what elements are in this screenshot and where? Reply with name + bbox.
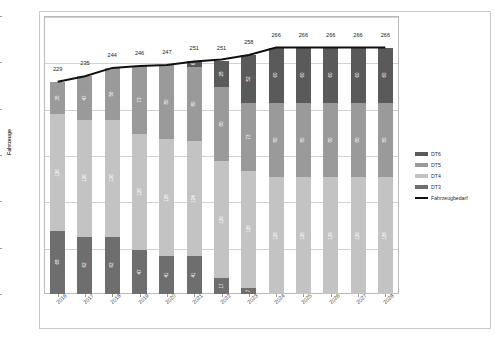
bar-segment-dt5[interactable]: 56 [105,68,120,120]
x-axis-tick-label: 2018 [109,293,122,306]
bar-segment-dt6[interactable]: 6 [187,61,202,67]
bar-segment-dt4[interactable]: 126 [323,177,338,294]
bar-total-label: 244 [108,52,117,58]
bar-segment-dt5[interactable]: 80 [159,65,174,139]
bar-group[interactable]: 1268060266 [378,16,393,294]
bar-segment-dt4[interactable]: 126 [77,120,92,237]
bar-total-label: 229 [53,66,62,72]
bar-segment-value: 6 [192,63,197,66]
bar-segment-dt3[interactable]: 47 [132,250,147,294]
bar-segment-value: 126 [301,232,306,240]
x-axis-tick-label: 2019 [137,293,150,306]
legend-label: DT4 [431,173,441,179]
bar-segment-dt4[interactable]: 126 [214,161,229,278]
bar-segment-value: 126 [247,225,252,233]
bar-total-label: 246 [135,50,144,56]
bar-group[interactable]: 1268060266 [269,16,284,294]
bar-segment-dt6[interactable]: 52 [241,55,256,103]
bar-group[interactable]: 6812635229 [50,16,65,294]
bar-segment-dt3[interactable]: 41 [159,256,174,294]
bar-segment-value: 60 [274,73,279,78]
bar-segment-dt4[interactable]: 126 [50,114,65,231]
x-axis-tick-label: 2023 [246,293,259,306]
bar-segment-dt3[interactable]: 41 [187,256,202,294]
bar-group[interactable]: 6212647235 [77,16,92,294]
bar-total-label: 235 [80,60,89,66]
bar-segment-dt6[interactable]: 60 [269,48,284,104]
legend-item[interactable]: DT6 [415,148,493,159]
bar-segment-dt5[interactable]: 35 [50,82,65,114]
bar-segment-dt4[interactable]: 126 [241,171,256,288]
bar-segment-dt4[interactable]: 126 [105,120,120,237]
x-axis-tick-label: 2027 [355,293,368,306]
bar-segment-dt4[interactable]: 126 [269,177,284,294]
bar-segment-dt6[interactable]: 60 [323,48,338,104]
bar-segment-value: 47 [137,270,142,275]
bar-segment-value: 124 [192,195,197,203]
bar-group[interactable]: 171268028251 [214,16,229,294]
bar-segment-dt6[interactable]: 60 [351,48,366,104]
bar-segment-value: 126 [110,174,115,182]
bar-segment-dt5[interactable]: 73 [132,66,147,134]
chart-container: 050100150200250300 Fahrzeuge 68126352296… [0,0,495,340]
bar-group[interactable]: 1268060266 [296,16,311,294]
bar-segment-dt5[interactable]: 80 [351,103,366,177]
bar-segment-value: 126 [83,174,88,182]
bar-group[interactable]: 6212656244 [105,16,120,294]
bar-segment-value: 60 [383,73,388,78]
bar-group[interactable]: 41124806251 [187,16,202,294]
y-axis-tick-mark [0,16,2,17]
bar-group[interactable]: 1268060266 [323,16,338,294]
bar-total-label: 258 [244,39,253,45]
bar-total-label: 247 [162,49,171,55]
bar-segment-value: 47 [83,95,88,100]
bar-segment-dt4[interactable]: 126 [159,139,174,256]
bar-segment-value: 80 [219,122,224,127]
legend-label: DT5 [431,162,441,168]
bar-group[interactable]: 4112680247 [159,16,174,294]
legend-item[interactable]: DT3 [415,181,493,192]
bar-segment-dt5[interactable]: 80 [378,103,393,177]
bar-segment-dt6[interactable]: 60 [378,48,393,104]
y-axis-title: Fahrzeuge [6,129,12,155]
bar-segment-dt5[interactable]: 80 [187,67,202,141]
bar-segment-dt4[interactable]: 126 [296,177,311,294]
bar-group[interactable]: 71267352258 [241,16,256,294]
y-axis-tick-mark [0,62,2,63]
x-axis-tick-label: 2024 [273,293,286,306]
bar-segment-dt4[interactable]: 126 [351,177,366,294]
bar-segment-dt5[interactable]: 80 [269,103,284,177]
bar-segment-value: 126 [274,232,279,240]
legend-item[interactable]: DT5 [415,159,493,170]
bar-segment-dt3[interactable]: 62 [105,237,120,294]
legend-swatch [415,185,428,189]
legend-label: DT6 [431,151,441,157]
bar-segment-value: 80 [328,138,333,143]
bar-group[interactable]: 1268060266 [351,16,366,294]
bar-segment-dt5[interactable]: 73 [241,103,256,171]
bar-segment-dt5[interactable]: 47 [77,76,92,120]
legend-item[interactable]: Fahrzeugbedarf [415,192,493,203]
bar-segment-dt5[interactable]: 80 [323,103,338,177]
bar-segment-dt6[interactable]: 28 [214,61,229,87]
bar-segment-value: 60 [301,73,306,78]
bar-segment-dt4[interactable]: 124 [187,141,202,256]
bar-segment-value: 80 [165,100,170,105]
bar-segment-value: 62 [110,263,115,268]
legend-item[interactable]: DT4 [415,170,493,181]
bar-segment-value: 52 [247,76,252,81]
bar-segment-value: 73 [247,134,252,139]
x-axis-tick-label: 2021 [191,293,204,306]
bar-segment-value: 60 [356,73,361,78]
bar-segment-dt3[interactable]: 68 [50,231,65,294]
bar-segment-dt3[interactable]: 62 [77,237,92,294]
bar-total-label: 266 [353,32,362,38]
bar-segment-dt5[interactable]: 80 [214,87,229,161]
x-axis: 2016201720182019202020212022202320242025… [44,294,399,340]
bar-group[interactable]: 4712673246 [132,16,147,294]
bar-segment-dt6[interactable]: 60 [296,48,311,104]
bar-segment-value: 62 [83,263,88,268]
bar-segment-dt4[interactable]: 126 [132,134,147,251]
bar-segment-dt4[interactable]: 126 [378,177,393,294]
bar-segment-dt5[interactable]: 80 [296,103,311,177]
